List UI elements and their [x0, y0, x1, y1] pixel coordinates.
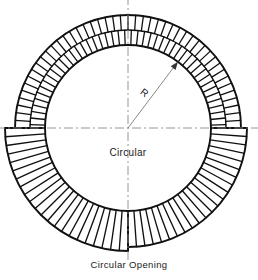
upper-inner-joint — [30, 125, 45, 126]
upper-inner-joint — [131, 30, 132, 45]
technical-drawing: Circular R Circular Opening — [0, 0, 258, 280]
upper-inner-joint — [125, 30, 126, 45]
upper-inner-joint — [211, 125, 226, 126]
figure-caption: Circular Opening — [91, 259, 168, 270]
circular-opening-figure: Circular R Circular Opening — [0, 0, 258, 280]
drawing-background — [0, 0, 258, 280]
interior-label: Circular — [110, 147, 147, 158]
